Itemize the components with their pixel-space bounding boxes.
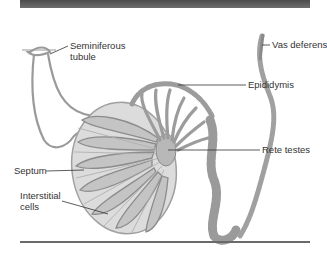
label-interstitial-cells: Interstitial cells — [20, 190, 61, 212]
label-epididymis: Epididymis — [248, 79, 294, 90]
footer-rule — [20, 241, 310, 243]
label-seminiferous-line2: tubule — [70, 51, 125, 62]
label-seminiferous-line1: Seminiferous — [70, 40, 125, 51]
epididymis-body — [210, 120, 236, 240]
vas-deferens — [240, 36, 274, 236]
label-interstitial-line2: cells — [20, 201, 61, 212]
label-septum: Septum — [14, 165, 47, 176]
label-rete-testes: Rete testes — [262, 144, 310, 155]
label-interstitial-line1: Interstitial — [20, 190, 61, 201]
label-seminiferous-tubule: Seminiferous tubule — [70, 40, 125, 62]
label-vas-deferens: Vas deferens — [272, 39, 327, 50]
